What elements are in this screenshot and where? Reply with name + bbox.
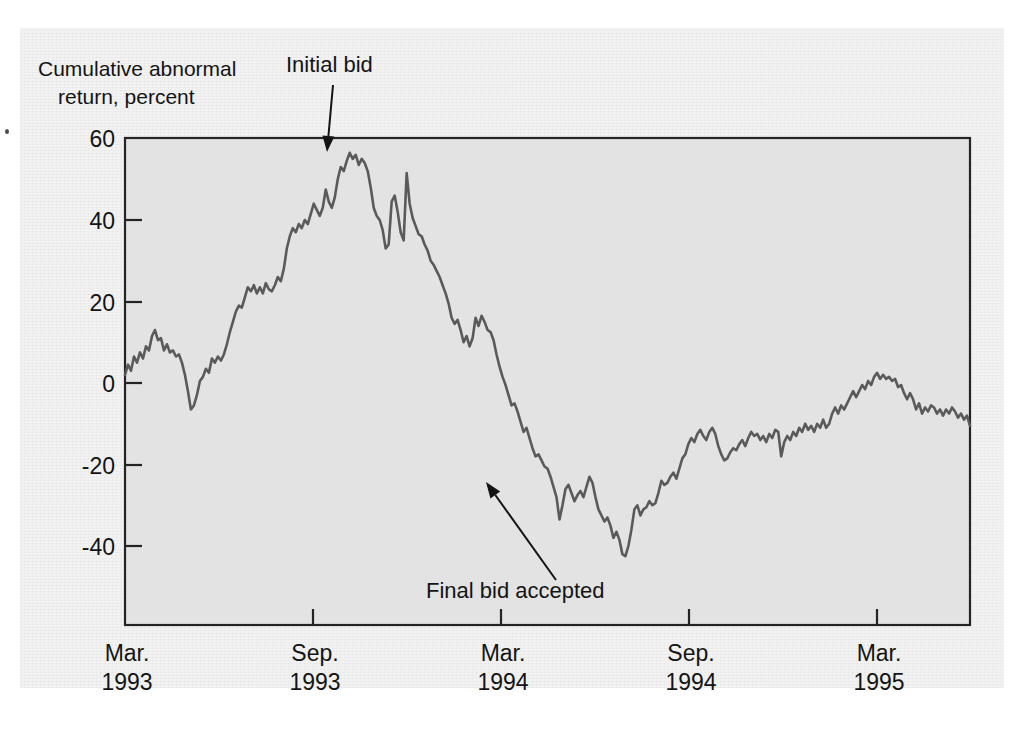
x-tick-label-1-month: Sep. bbox=[291, 640, 338, 666]
x-tick-label-4-year: 1995 bbox=[853, 669, 904, 695]
annotation-final-bid-accepted-arrow-head bbox=[486, 482, 500, 499]
annotation-final-bid-accepted: Final bid accepted bbox=[426, 482, 605, 603]
y-tick-marks bbox=[125, 220, 142, 546]
chart-canvas: Cumulative abnormal return, percent 60 4… bbox=[0, 0, 1024, 732]
y-tick-label-m40: -40 bbox=[82, 534, 115, 560]
y-tick-label-40: 40 bbox=[89, 208, 115, 234]
annotation-initial-bid-arrow-head bbox=[322, 136, 334, 152]
x-tick-label-2-month: Mar. bbox=[481, 640, 526, 666]
annotation-final-bid-accepted-label: Final bid accepted bbox=[426, 578, 605, 603]
x-tick-label-0-month: Mar. bbox=[105, 640, 150, 666]
y-tick-label-60: 60 bbox=[89, 126, 115, 152]
x-tick-label-2-year: 1994 bbox=[477, 669, 528, 695]
x-tick-label-1-year: 1993 bbox=[289, 669, 340, 695]
annotation-initial-bid-arrow-shaft bbox=[328, 85, 333, 136]
x-tick-label-3-month: Sep. bbox=[667, 640, 714, 666]
y-tick-labels: 60 40 20 0 -20 -40 bbox=[82, 126, 115, 560]
y-tick-label-0: 0 bbox=[102, 371, 115, 397]
x-tick-label-4-month: Mar. bbox=[857, 640, 902, 666]
x-tick-label-0-year: 1993 bbox=[101, 669, 152, 695]
y-axis-title-line2: return, percent bbox=[58, 85, 195, 108]
annotation-initial-bid-label: Initial bid bbox=[286, 52, 373, 77]
y-axis-title-line1: Cumulative abnormal bbox=[38, 57, 236, 80]
plot-frame bbox=[125, 138, 970, 625]
y-tick-label-m20: -20 bbox=[82, 453, 115, 479]
x-tick-labels: Mar. 1993 Sep. 1993 Mar. 1994 Sep. 1994 … bbox=[101, 640, 904, 695]
chart-figure: Cumulative abnormal return, percent 60 4… bbox=[0, 0, 1024, 732]
x-tick-label-3-year: 1994 bbox=[665, 669, 716, 695]
data-series-line bbox=[125, 153, 970, 556]
annotation-final-bid-accepted-arrow-shaft bbox=[495, 495, 556, 580]
x-tick-marks bbox=[313, 609, 877, 625]
y-tick-label-20: 20 bbox=[89, 290, 115, 316]
